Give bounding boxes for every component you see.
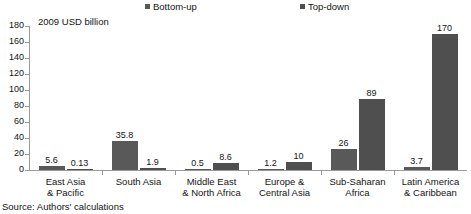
- bar-value-label: 26: [338, 138, 348, 148]
- bar: 0.13: [67, 169, 93, 171]
- bar: 170: [432, 34, 458, 170]
- y-tick-mark: [25, 26, 29, 27]
- bar: 1.9: [140, 168, 166, 170]
- y-tick-label: 140: [9, 52, 24, 63]
- y-tick-mark: [25, 58, 29, 59]
- y-tick-mark: [25, 74, 29, 75]
- y-tick-label: 160: [9, 36, 24, 47]
- bar-value-label: 3.7: [410, 156, 423, 166]
- y-tick-label: 180: [9, 20, 24, 31]
- x-category-label: Latin America& Caribbean: [394, 176, 467, 198]
- legend-label-top-down: Top-down: [308, 1, 349, 12]
- bar: 26: [331, 149, 357, 170]
- y-tick-mark: [25, 170, 29, 171]
- y-tick-mark: [25, 122, 29, 123]
- x-category-label-line: & Pacific: [29, 187, 102, 198]
- bar-value-label: 170: [437, 23, 452, 33]
- x-category-label: East Asia& Pacific: [29, 176, 102, 198]
- y-tick-mark: [25, 154, 29, 155]
- bar-value-label: 89: [366, 88, 376, 98]
- x-category-label-line: & Caribbean: [394, 187, 467, 198]
- legend-entry-top-down: Top-down: [300, 1, 349, 12]
- bar-value-label: 10: [293, 151, 303, 161]
- y-tick-label: 20: [14, 148, 24, 159]
- y-tick-mark: [25, 42, 29, 43]
- bar-value-label: 1.2: [264, 158, 277, 168]
- x-category-label: Middle East& North Africa: [175, 176, 248, 198]
- bar-value-label: 8.6: [219, 152, 232, 162]
- bar-value-label: 0.13: [71, 158, 89, 168]
- source-note: Source: Authors' calculations: [2, 201, 124, 212]
- x-category-label-line: Middle East: [175, 176, 248, 187]
- bar: 3.7: [404, 167, 430, 170]
- y-tick-label: 60: [14, 116, 24, 127]
- x-tick-mark: [321, 171, 322, 175]
- bar-value-label: 0.5: [191, 158, 204, 168]
- x-category-label-line: East Asia: [29, 176, 102, 187]
- x-category-label-line: Europe &: [248, 176, 321, 187]
- y-tick-label: 0: [19, 164, 24, 175]
- bar-value-label: 5.6: [45, 155, 58, 165]
- x-category-label-line: Latin America: [394, 176, 467, 187]
- bar: 5.6: [39, 166, 65, 170]
- x-category-label-line: Central Asia: [248, 187, 321, 198]
- bar-value-label: 1.9: [146, 157, 159, 167]
- x-tick-mark: [248, 171, 249, 175]
- bar: 89: [359, 99, 385, 170]
- x-category-label: Europe &Central Asia: [248, 176, 321, 198]
- y-tick-label: 100: [9, 84, 24, 95]
- bar-chart: Bottom-up Top-down 2009 USD billion 0204…: [0, 0, 471, 214]
- y-tick-label: 80: [14, 100, 24, 111]
- y-axis-line: [29, 26, 30, 171]
- legend-swatch-bottom-up: [145, 4, 150, 9]
- bar: 35.8: [112, 141, 138, 170]
- y-tick-mark: [25, 138, 29, 139]
- legend-swatch-top-down: [300, 4, 305, 9]
- y-tick-mark: [25, 90, 29, 91]
- bar: 8.6: [213, 163, 239, 170]
- x-tick-mark: [394, 171, 395, 175]
- x-category-label-line: Sub-Saharan: [321, 176, 394, 187]
- legend-entry-bottom-up: Bottom-up: [145, 1, 197, 12]
- x-category-label: South Asia: [102, 176, 175, 187]
- y-tick-label: 40: [14, 132, 24, 143]
- x-category-label-line: Africa: [321, 187, 394, 198]
- y-tick-mark: [25, 106, 29, 107]
- bar: 1.2: [258, 169, 284, 171]
- y-tick-label: 120: [9, 68, 24, 79]
- bar: 0.5: [185, 169, 211, 171]
- x-tick-mark: [175, 171, 176, 175]
- x-category-label: Sub-SaharanAfrica: [321, 176, 394, 198]
- plot-area: 020406080100120140160180 5.635.80.51.226…: [29, 26, 467, 171]
- bar-value-label: 35.8: [116, 130, 134, 140]
- x-category-label-line: & North Africa: [175, 187, 248, 198]
- chart-legend: Bottom-up Top-down: [0, 1, 471, 15]
- bar: 10: [286, 162, 312, 170]
- x-tick-mark: [102, 171, 103, 175]
- legend-label-bottom-up: Bottom-up: [153, 1, 197, 12]
- x-category-label-line: South Asia: [102, 176, 175, 187]
